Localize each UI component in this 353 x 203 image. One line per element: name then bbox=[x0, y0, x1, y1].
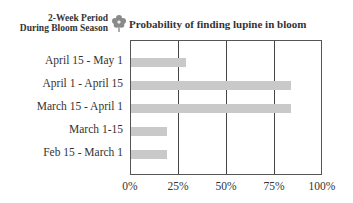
y-axis-title-line2: During Bloom Season bbox=[0, 23, 108, 33]
bar bbox=[131, 104, 291, 113]
bar bbox=[131, 81, 291, 90]
category-label: March 1-15 bbox=[69, 123, 123, 135]
category-label: March 15 - April 1 bbox=[37, 100, 123, 112]
y-axis-title: 2-Week Period During Bloom Season bbox=[0, 13, 108, 33]
y-axis-title-line1: 2-Week Period bbox=[0, 13, 108, 23]
x-tick-label: 50% bbox=[215, 180, 236, 192]
chart-title: Probability of finding lupine in bloom bbox=[129, 18, 306, 30]
x-tick-label: 100% bbox=[309, 180, 336, 192]
category-label: April 15 - May 1 bbox=[45, 54, 123, 66]
bar bbox=[131, 127, 167, 136]
category-label: Feb 15 - March 1 bbox=[43, 146, 123, 158]
lupine-flower-icon bbox=[111, 14, 127, 32]
bar bbox=[131, 150, 167, 159]
plot-area bbox=[130, 40, 322, 175]
x-tick-label: 25% bbox=[167, 180, 188, 192]
bar bbox=[131, 58, 186, 67]
category-label: April 1 - April 15 bbox=[43, 77, 124, 89]
x-tick-label: 0% bbox=[122, 180, 137, 192]
x-tick-label: 75% bbox=[263, 180, 284, 192]
